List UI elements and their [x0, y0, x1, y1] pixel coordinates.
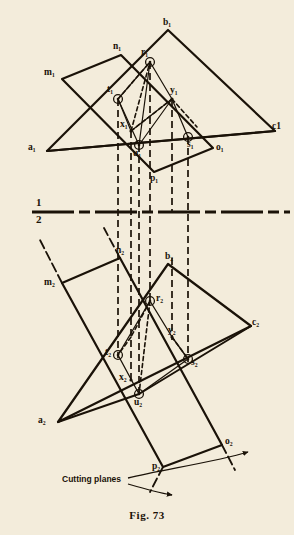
label-b2: b₂ [165, 252, 173, 262]
point-dots-view1 [117, 61, 190, 147]
label-m1: m₁ [44, 68, 55, 78]
parallelogram-mnop-view2 [62, 258, 222, 467]
construction-lines-view1 [118, 62, 188, 145]
label-n2: n₂ [116, 246, 124, 256]
label-a2: a₂ [38, 416, 46, 426]
label-m2: m₂ [44, 278, 55, 288]
label-t1: t₁ [107, 85, 113, 95]
label-s2: s₂ [191, 358, 198, 368]
triangle-abc-view1 [47, 30, 275, 151]
label-c2: c₂ [252, 318, 259, 328]
top-view-group [47, 30, 275, 172]
label-c1: c1 [272, 122, 281, 132]
point-markers-view2 [114, 297, 193, 399]
label-s1: s₁ [187, 140, 194, 150]
point-dots-view2 [117, 300, 190, 396]
label-a1: a₁ [28, 143, 36, 153]
hidden-construction-view2 [118, 301, 188, 394]
cutting-plane-extension-lines [40, 228, 235, 492]
ground-line-label-1: 1 [36, 196, 42, 208]
label-x1: x₁ [120, 120, 128, 130]
front-view-group [40, 228, 251, 492]
figure-caption: Fig. 73 [0, 509, 294, 521]
ground-line-label-2: 2 [36, 213, 42, 225]
label-p2: p₂ [152, 462, 160, 472]
figure-73-drawing [0, 0, 294, 535]
label-u2: u₂ [134, 398, 142, 408]
intersection-line-view1 [47, 131, 275, 151]
cutting-planes-label: Cutting planes [62, 474, 121, 484]
label-u1: u₁ [133, 149, 141, 159]
label-p1: p₁ [150, 174, 158, 184]
construction-lines-view2 [118, 301, 188, 394]
label-r2: r₂ [156, 294, 163, 304]
label-y2: y₂ [168, 326, 176, 336]
label-t2: t₂ [105, 348, 111, 358]
label-b1: b₁ [163, 18, 171, 28]
label-o2: o₂ [225, 437, 233, 447]
label-y1: y₁ [170, 86, 178, 96]
label-r1: r₁ [141, 48, 148, 58]
label-x2: x₂ [119, 373, 127, 383]
label-o1: o₁ [216, 143, 224, 153]
label-n1: n₁ [113, 42, 121, 52]
